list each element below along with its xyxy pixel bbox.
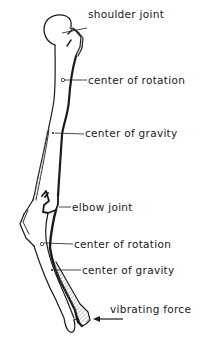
label-vibrating-force: vibrating force xyxy=(110,303,191,315)
label-elbow-joint: elbow joint xyxy=(72,201,133,213)
upper-gravity-center-marker xyxy=(52,132,54,134)
lower-gravity-center-marker xyxy=(51,269,53,271)
upper-gravity-leader xyxy=(55,133,84,134)
arrowhead-icon xyxy=(93,316,100,322)
lower-rotation-center-marker xyxy=(40,242,43,245)
label-center-of-gravity-upper: center of gravity xyxy=(85,127,178,139)
humerus-hatch xyxy=(33,128,49,200)
arm-bone-diagram xyxy=(0,0,207,350)
humerus-bone xyxy=(24,15,83,214)
vibrating-force-arrow xyxy=(93,316,123,322)
label-center-of-gravity-lower: center of gravity xyxy=(82,264,175,276)
forearm-bones xyxy=(20,210,90,332)
label-center-of-rotation-lower: center of rotation xyxy=(74,238,171,250)
lower-rotation-leader xyxy=(44,243,73,244)
label-shoulder-joint: shoulder joint xyxy=(88,8,164,20)
upper-rotation-center-marker xyxy=(61,78,64,81)
label-center-of-rotation-upper: center of rotation xyxy=(88,74,185,86)
